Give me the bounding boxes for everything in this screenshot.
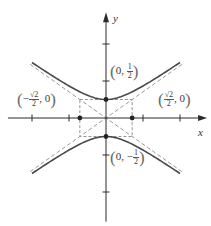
label-vertex-bottom: (0, −12)	[110, 149, 145, 166]
label-focus-right: (√22, 0)	[158, 91, 191, 108]
point-top	[104, 97, 109, 102]
x-axis-label: x	[198, 127, 203, 138]
plot-canvas	[0, 0, 211, 226]
x-axis-arrow-icon	[198, 115, 207, 121]
point-left	[77, 116, 82, 121]
point-bottom	[104, 134, 109, 139]
point-right	[130, 116, 135, 121]
y-axis-arrow-icon	[103, 12, 109, 22]
label-focus-left: (−√22, 0)	[17, 91, 56, 108]
hyperbola-figure: y x (0, 12) (0, −12) (−√22, 0) (√22, 0)	[0, 0, 211, 226]
label-vertex-top: (0, 12)	[110, 63, 138, 80]
y-axis-label: y	[113, 13, 118, 24]
